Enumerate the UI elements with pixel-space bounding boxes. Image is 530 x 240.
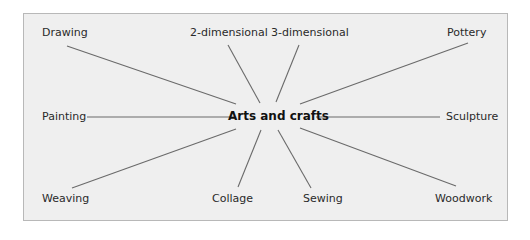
- node-sculpture: Sculpture: [446, 111, 498, 123]
- node-weaving: Weaving: [42, 193, 89, 205]
- node-pottery: Pottery: [447, 27, 486, 39]
- node-woodwork: Woodwork: [435, 193, 492, 205]
- node-collage: Collage: [212, 193, 253, 205]
- node-3-dimensional: 3-dimensional: [271, 27, 349, 39]
- node-sewing: Sewing: [303, 193, 343, 205]
- node-drawing: Drawing: [42, 27, 88, 39]
- node-2-dimensional: 2-dimensional: [190, 27, 268, 39]
- center-node: Arts and crafts: [228, 110, 329, 123]
- node-painting: Painting: [42, 111, 86, 123]
